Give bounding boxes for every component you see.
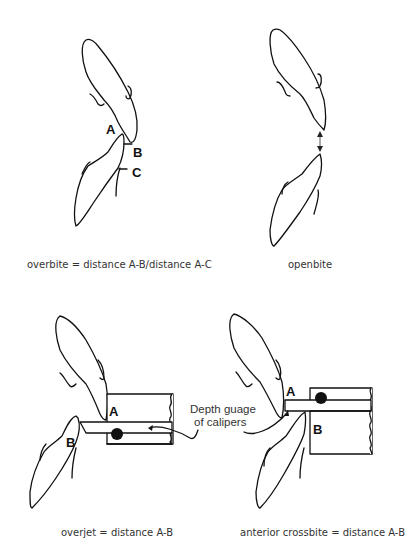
label-b: B [133, 145, 142, 160]
dental-occlusion-diagram: A B C A B [0, 0, 414, 557]
overjet-figure: A B [30, 316, 198, 508]
lower-incisor [270, 154, 322, 246]
lower-incisor [256, 412, 306, 508]
label-b: B [66, 435, 75, 450]
openbite-figure [270, 29, 326, 246]
label-b: B [313, 422, 322, 437]
upper-incisor [56, 316, 108, 420]
depth-gauge-bar [285, 400, 371, 411]
depth-gauge-label-line1: Depth guage [190, 403, 256, 415]
caliper-pivot [315, 392, 327, 404]
label-c: C [132, 165, 142, 180]
openbite-caption: openbite [288, 259, 332, 270]
depth-gauge-label-line2: of calipers [194, 416, 247, 428]
overbite-caption: overbite = distance A-B/distance A-C [27, 259, 212, 270]
crossbite-caption: anterior crossbite = distance A-B [240, 527, 405, 538]
overjet-caption: overjet = distance A-B [61, 527, 173, 538]
overbite-figure: A B C [75, 39, 143, 226]
caliper-pivot [111, 428, 123, 440]
label-a: A [109, 404, 119, 419]
label-a: A [106, 122, 116, 137]
label-a: A [286, 384, 296, 399]
upper-incisor [270, 29, 325, 130]
lower-incisor [30, 416, 79, 508]
